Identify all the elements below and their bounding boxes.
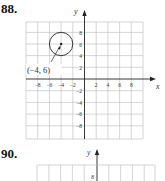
x-axis-arrow-icon bbox=[150, 77, 156, 81]
svg-text:2: 2 bbox=[79, 65, 82, 71]
y-tick-label-90: 8 bbox=[91, 174, 94, 180]
y-axis-arrow-icon-90 bbox=[95, 149, 99, 155]
grid-90 bbox=[37, 165, 155, 181]
svg-text:6: 6 bbox=[79, 42, 82, 48]
svg-text:−6: −6 bbox=[46, 82, 52, 88]
svg-text:−8: −8 bbox=[35, 82, 41, 88]
svg-text:−2: −2 bbox=[70, 82, 76, 88]
x-axis-label: x bbox=[155, 82, 160, 91]
svg-text:4: 4 bbox=[107, 82, 110, 88]
graph-90: y 8 bbox=[37, 148, 155, 181]
svg-text:2: 2 bbox=[95, 82, 98, 88]
svg-text:8: 8 bbox=[130, 82, 133, 88]
svg-text:6: 6 bbox=[118, 82, 121, 88]
y-axis-arrow-icon bbox=[82, 10, 86, 16]
svg-text:−2: −2 bbox=[76, 88, 82, 94]
circle-center-point bbox=[60, 43, 62, 45]
x-tick-labels: −8 −6 −4 −2 2 4 6 8 bbox=[35, 82, 133, 88]
svg-text:−6: −6 bbox=[76, 111, 82, 117]
svg-text:−4: −4 bbox=[58, 82, 64, 88]
y-tick-labels: 8 6 4 2 −2 −4 −6 −8 bbox=[76, 30, 82, 129]
graph-88: y x 8 6 4 2 −2 −4 −6 −8 −8 −6 −4 −2 2 4 … bbox=[26, 7, 160, 139]
coordinate-graphs: y x 8 6 4 2 −2 −4 −6 −8 −8 −6 −4 −2 2 4 … bbox=[0, 0, 165, 181]
y-axis-label-90: y bbox=[86, 148, 91, 157]
svg-text:−8: −8 bbox=[76, 123, 82, 129]
circle-center-label: (−4, 6) bbox=[27, 65, 50, 75]
svg-text:4: 4 bbox=[79, 53, 82, 59]
svg-text:−4: −4 bbox=[76, 100, 82, 106]
svg-text:8: 8 bbox=[79, 30, 82, 36]
y-axis-label: y bbox=[73, 7, 78, 16]
center-leader-line bbox=[51, 47, 60, 62]
